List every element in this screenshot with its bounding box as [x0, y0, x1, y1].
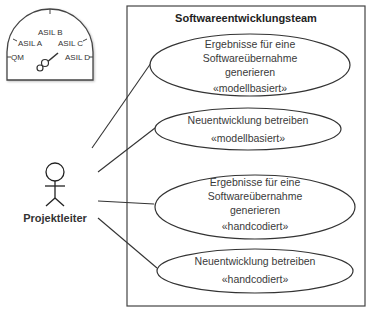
- use-case-1-line-1: Ergebnisse für eine: [205, 38, 296, 50]
- associations: [92, 63, 157, 268]
- use-case-2-line-1: Neuentwicklung betreiben: [188, 114, 309, 126]
- use-case-3-line-1: Ergebnisse für eine: [210, 176, 301, 188]
- system-title: Softwareentwicklungsteam: [175, 12, 317, 24]
- use-case-diagram: ASIL B ASIL A ASIL C QM ASIL D Softwaree…: [0, 0, 373, 316]
- use-case-4[interactable]: Neuentwicklung betreiben «handcodiert»: [157, 249, 353, 293]
- use-case-4-stereotype: «handcodiert»: [222, 273, 289, 285]
- use-case-3-line-3: generieren: [230, 204, 280, 216]
- use-case-3-stereotype: «handcodiert»: [222, 220, 289, 232]
- use-case-2[interactable]: Neuentwicklung betreiben «modellbasiert»: [155, 108, 341, 150]
- gauge-label-asil-d: ASIL D: [65, 53, 90, 62]
- actor-stick-figure-icon[interactable]: [45, 163, 65, 206]
- use-case-3[interactable]: Ergebnisse für eine Softwareübernahme ge…: [155, 175, 355, 239]
- use-case-3-line-2: Softwareübernahme: [208, 190, 303, 202]
- gauge-label-asil-a: ASIL A: [18, 39, 43, 48]
- actor-label: Projektleiter: [23, 212, 87, 224]
- gauge-label-qm: QM: [11, 53, 24, 62]
- use-case-4-line-1: Neuentwicklung betreiben: [195, 255, 316, 267]
- use-case-1-stereotype: «modellbasiert»: [213, 82, 287, 94]
- use-case-1-line-2: Softwareübernahme: [203, 52, 298, 64]
- asil-gauge-icon: ASIL B ASIL A ASIL C QM ASIL D: [7, 9, 93, 80]
- use-case-1[interactable]: Ergebnisse für eine Softwareübernahme ge…: [150, 34, 350, 96]
- gauge-label-asil-c: ASIL C: [58, 39, 83, 48]
- use-case-1-line-3: generieren: [225, 66, 275, 78]
- gauge-label-asil-b: ASIL B: [38, 28, 63, 37]
- use-case-2-stereotype: «modellbasiert»: [211, 132, 285, 144]
